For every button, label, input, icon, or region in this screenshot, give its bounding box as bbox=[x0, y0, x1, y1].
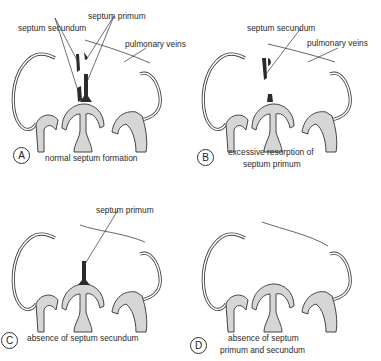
panel-badge-c: C bbox=[1, 332, 18, 349]
caption-b-line2: septum primum bbox=[243, 158, 301, 169]
label-pulmonary-veins: pulmonary veins bbox=[307, 37, 368, 48]
panel-badge-b: B bbox=[197, 149, 214, 166]
panel-c bbox=[13, 210, 160, 332]
caption-c: absence of septum secundum bbox=[27, 332, 139, 343]
label-septum-secundum: septum secundum bbox=[247, 22, 315, 33]
caption-d-line1: absence of septum bbox=[228, 332, 299, 343]
panel-badge-a: A bbox=[13, 147, 30, 164]
panel-badge-d: D bbox=[190, 337, 207, 354]
atrial-septum-defects-figure bbox=[0, 0, 381, 361]
caption-d-line2: primum and secundum bbox=[220, 344, 305, 355]
label-septum-secundum: septum secundum bbox=[18, 22, 86, 33]
label-pulmonary-veins: pulmonary veins bbox=[125, 38, 186, 49]
septum-secundum-shape bbox=[76, 54, 80, 72]
label-septum-primum: septum primum bbox=[96, 204, 154, 215]
panel-a bbox=[13, 16, 160, 152]
septum-primum-remnant bbox=[267, 94, 273, 102]
septum-secundum-shape bbox=[262, 58, 267, 80]
label-septum-primum: septum primum bbox=[88, 10, 146, 21]
septum-primum-shape bbox=[78, 261, 90, 285]
panel-d bbox=[203, 222, 350, 332]
caption-b-line1: excessive resorption of bbox=[228, 146, 314, 157]
caption-a: normal septum formation bbox=[45, 152, 137, 163]
